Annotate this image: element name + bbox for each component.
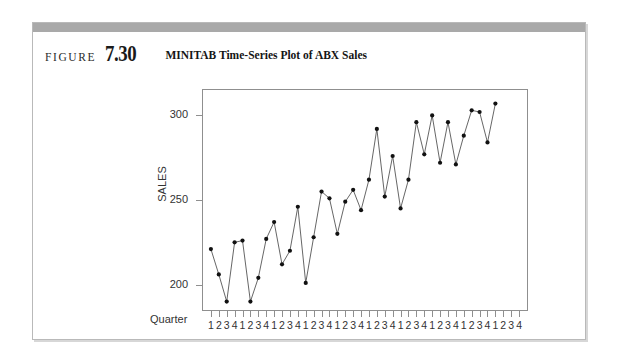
x-tick-mark — [448, 311, 449, 317]
data-point-marker — [383, 195, 387, 199]
x-tick-mark — [401, 311, 402, 317]
data-point-marker — [422, 152, 426, 156]
data-point-marker — [391, 154, 395, 158]
x-tick-mark — [274, 311, 275, 317]
data-point-marker — [217, 272, 221, 276]
x-tick-mark — [250, 311, 251, 317]
x-tick-mark — [243, 311, 244, 317]
x-tick-mark — [211, 311, 212, 317]
x-tick-mark — [219, 311, 220, 317]
data-point-marker — [264, 237, 268, 241]
x-tick-mark — [487, 311, 488, 317]
data-point-marker — [470, 108, 474, 112]
x-tick-mark — [345, 311, 346, 317]
data-point-marker — [343, 200, 347, 204]
x-tick-mark — [258, 311, 259, 317]
data-point-marker — [430, 113, 434, 117]
x-tick-mark — [385, 311, 386, 317]
x-tick-mark — [314, 311, 315, 317]
data-point-marker — [319, 189, 323, 193]
figure-box: Figure 7.30 MINITAB Time-Series Plot of … — [32, 22, 586, 340]
y-tick-label: 200 — [154, 278, 188, 290]
data-point-marker — [446, 120, 450, 124]
data-point-marker — [280, 262, 284, 266]
data-point-marker — [225, 299, 229, 303]
data-point-marker — [272, 220, 276, 224]
x-tick-mark — [464, 311, 465, 317]
data-point-marker — [414, 120, 418, 124]
x-tick-label: 4 — [514, 319, 524, 331]
data-point-marker — [304, 281, 308, 285]
x-tick-mark — [432, 311, 433, 317]
data-point-marker — [406, 178, 410, 182]
x-tick-mark — [519, 311, 520, 317]
data-point-marker — [209, 247, 213, 251]
x-axis-tick-labels: 1234123412341234123412341234123412341234 — [202, 319, 528, 333]
y-tick-label: 300 — [154, 108, 188, 120]
time-series-chart: SALES Quarter 200250300 1234123412341234… — [33, 23, 587, 341]
data-point-marker — [359, 208, 363, 212]
data-point-marker — [296, 205, 300, 209]
data-point-marker — [335, 232, 339, 236]
y-tick-label: 250 — [154, 193, 188, 205]
x-tick-mark — [503, 311, 504, 317]
x-tick-mark — [306, 311, 307, 317]
x-tick-mark — [495, 311, 496, 317]
x-tick-mark — [329, 311, 330, 317]
page-canvas: Figure 7.30 MINITAB Time-Series Plot of … — [0, 0, 618, 363]
x-tick-mark — [235, 311, 236, 317]
x-tick-mark — [424, 311, 425, 317]
data-point-marker — [367, 178, 371, 182]
data-point-marker — [248, 299, 252, 303]
x-tick-mark — [416, 311, 417, 317]
data-point-marker — [438, 161, 442, 165]
x-tick-mark — [408, 311, 409, 317]
x-tick-mark — [480, 311, 481, 317]
series-line-sales — [203, 90, 527, 310]
x-tick-mark — [322, 311, 323, 317]
data-point-marker — [477, 110, 481, 114]
x-tick-mark — [290, 311, 291, 317]
x-tick-mark — [298, 311, 299, 317]
data-point-marker — [398, 206, 402, 210]
x-tick-mark — [377, 311, 378, 317]
x-tick-mark — [361, 311, 362, 317]
x-tick-mark — [353, 311, 354, 317]
data-point-marker — [454, 162, 458, 166]
x-tick-mark — [282, 311, 283, 317]
x-tick-mark — [337, 311, 338, 317]
x-tick-mark — [511, 311, 512, 317]
data-point-marker — [351, 188, 355, 192]
data-point-marker — [485, 140, 489, 144]
x-tick-mark — [456, 311, 457, 317]
x-tick-mark — [266, 311, 267, 317]
data-point-marker — [493, 101, 497, 105]
data-point-marker — [233, 240, 237, 244]
data-point-marker — [375, 127, 379, 131]
data-point-marker — [240, 239, 244, 243]
x-tick-mark — [227, 311, 228, 317]
x-axis-label: Quarter — [150, 313, 187, 325]
plot-frame — [202, 89, 528, 311]
x-axis-tick-marks — [202, 311, 528, 319]
x-tick-mark — [472, 311, 473, 317]
data-point-marker — [462, 134, 466, 138]
data-point-marker — [327, 196, 331, 200]
x-tick-mark — [440, 311, 441, 317]
x-tick-mark — [369, 311, 370, 317]
data-point-marker — [288, 249, 292, 253]
data-point-marker — [256, 276, 260, 280]
data-point-marker — [312, 235, 316, 239]
series-polyline — [211, 104, 495, 302]
x-tick-mark — [393, 311, 394, 317]
